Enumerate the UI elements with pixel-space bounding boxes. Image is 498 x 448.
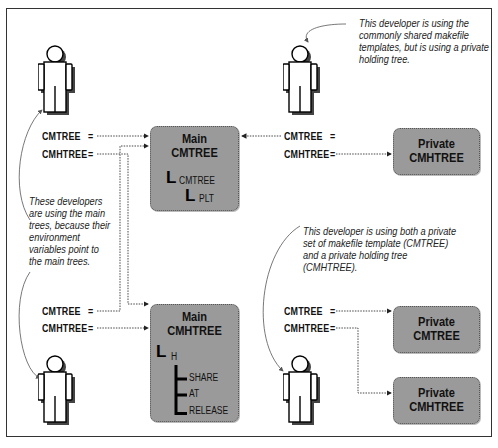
var-eq: =: [330, 322, 335, 334]
tree-branch-icon: L: [185, 187, 195, 204]
box-title-line2: CMHTREE: [400, 151, 472, 165]
var-eq: =: [88, 148, 93, 160]
tree-item: SHARE: [189, 372, 218, 383]
tree-branch-icon: L: [166, 169, 176, 186]
var-label-cmtree-top-right: CMTREE: [284, 130, 323, 142]
tree-item: CMTREE: [179, 175, 215, 186]
tree-branch-icon: L: [156, 343, 166, 360]
var-label-cmhtree-top-right: CMHTREE: [284, 148, 329, 160]
main-cmhtree-box: Main CMHTREE L H SHARE AT RELEASE: [150, 304, 239, 422]
box-title-line1: Private: [400, 137, 472, 151]
var-label-cmtree-bottom-left: CMTREE: [42, 305, 81, 317]
connector-br-cmhtree: [336, 328, 391, 393]
developer-icon-bottom-right: [283, 354, 325, 434]
var-eq: =: [330, 148, 335, 160]
var-eq: =: [330, 130, 335, 142]
callout-arrow-bottom-right: [263, 226, 300, 371]
note-top-right: This developer is using the commonly sha…: [359, 17, 491, 65]
tree-item: RELEASE: [189, 405, 228, 416]
var-eq: =: [88, 130, 93, 142]
var-label-cmhtree-top-left: CMHTREE: [42, 148, 87, 160]
var-eq: =: [88, 322, 93, 334]
developer-icon-top-right: [283, 44, 325, 124]
var-eq: =: [330, 305, 335, 317]
box-title-line2: CMTREE: [158, 146, 232, 160]
tree-branch-icon: [173, 365, 189, 417]
var-label-cmtree-top-left: CMTREE: [42, 130, 81, 142]
callout-arrow-top-right: [306, 24, 346, 42]
private-cmhtree-box-bottom: Private CMHTREE: [393, 377, 480, 424]
box-title-line1: Private: [400, 386, 472, 400]
callout-arrow-left-down: [19, 272, 40, 378]
private-cmtree-box-bottom: Private CMTREE: [393, 306, 480, 353]
box-title-line1: Main: [158, 310, 232, 324]
main-cmtree-box: Main CMTREE L CMTREE L PLT: [150, 126, 239, 211]
tree-item: AT: [189, 388, 199, 399]
box-title-line1: Private: [400, 315, 472, 329]
var-label-cmhtree-bottom-left: CMHTREE: [42, 322, 87, 334]
tree-item: PLT: [199, 193, 214, 204]
private-cmhtree-box-top: Private CMHTREE: [393, 128, 480, 175]
developer-icon-bottom-left: [38, 354, 80, 434]
tree-item: H: [171, 351, 177, 362]
var-eq: =: [88, 305, 93, 317]
developer-icon-top-left: [38, 44, 80, 124]
note-bottom-right: This developer is using both a private s…: [303, 225, 457, 273]
var-label-cmhtree-bottom-right: CMHTREE: [284, 322, 329, 334]
box-title-line1: Main: [158, 132, 232, 146]
var-label-cmtree-bottom-right: CMTREE: [284, 305, 323, 317]
box-title-line2: CMHTREE: [400, 400, 472, 414]
note-left: These developers are using the main tree…: [29, 195, 112, 267]
box-title-line2: CMHTREE: [158, 324, 232, 338]
box-title-line2: CMTREE: [400, 329, 472, 343]
